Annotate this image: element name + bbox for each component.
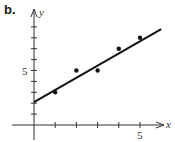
x-tick-label: 5 — [137, 129, 143, 141]
scatter-chart: 55xy — [0, 0, 175, 142]
y-axis-label: y — [38, 6, 44, 18]
data-point — [74, 68, 78, 72]
y-tick-label: 5 — [22, 65, 28, 77]
x-axis-label: x — [165, 118, 171, 130]
data-point — [95, 68, 99, 72]
data-point — [117, 47, 121, 51]
fitted-line — [34, 29, 161, 102]
